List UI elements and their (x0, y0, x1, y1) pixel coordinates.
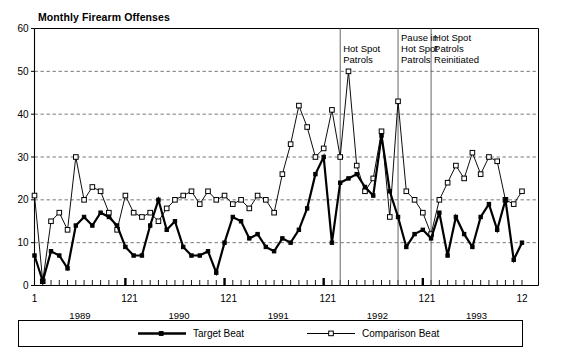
target-beat-point (82, 215, 85, 218)
annotation-label-line: Reinitiated (434, 54, 479, 65)
comparison-beat-point (487, 155, 492, 160)
target-beat-point (115, 224, 118, 227)
target-beat-point (91, 224, 94, 227)
annotation-label-line: Hot Spot (401, 43, 438, 54)
target-beat-point (148, 224, 151, 227)
comparison-beat-point (57, 210, 62, 215)
comparison-beat-point (32, 193, 37, 198)
x-axis-tick-label-year-boundary: 121 (419, 293, 436, 304)
comparison-beat-point (421, 210, 426, 215)
target-beat-point (173, 220, 176, 223)
year-label: 1992 (367, 310, 388, 321)
target-beat-point (471, 245, 474, 248)
comparison-beat-point (264, 198, 269, 203)
target-beat-point (380, 134, 383, 137)
comparison-beat-point (354, 163, 359, 168)
target-beat-point (446, 254, 449, 257)
comparison-beat-point (478, 172, 483, 177)
target-beat-point (239, 220, 242, 223)
target-beat-point (396, 215, 399, 218)
comparison-beat-point (297, 103, 302, 108)
comparison-beat-point (255, 193, 260, 198)
y-axis-tick-label: 20 (17, 194, 29, 205)
comparison-beat-point (181, 193, 186, 198)
legend-label-comparison-beat: Comparison Beat (362, 328, 439, 339)
target-beat-point (421, 228, 424, 231)
target-beat-point (33, 254, 36, 257)
target-beat-point (305, 207, 308, 210)
x-axis-tick-label-end: 12 (516, 293, 528, 304)
comparison-beat-point (107, 210, 112, 215)
target-beat-point (107, 215, 110, 218)
legend-box (19, 321, 523, 347)
target-beat-point (330, 241, 333, 244)
annotation-label-line: Patrols (401, 54, 431, 65)
target-beat-point (363, 185, 366, 188)
target-beat-point (66, 267, 69, 270)
comparison-beat-point (222, 193, 227, 198)
comparison-beat-point (189, 189, 194, 194)
comparison-beat-point (470, 150, 475, 155)
series-target-beat (33, 134, 524, 283)
comparison-beat-point (173, 198, 178, 203)
comparison-beat-point (272, 210, 277, 215)
y-axis-tick-label: 10 (17, 237, 29, 248)
x-axis-tick-label-start: 1 (32, 293, 38, 304)
y-axis-tick-label: 60 (17, 23, 29, 34)
target-beat-point (355, 172, 358, 175)
annotation-label-line: Hot Spot (343, 43, 380, 54)
year-labels-group: 19891990199119921993 (69, 310, 487, 321)
target-beat-point (198, 254, 201, 257)
target-beat-point (99, 211, 102, 214)
comparison-beat-point (280, 172, 285, 177)
year-label: 1991 (268, 310, 289, 321)
comparison-beat-point (330, 108, 335, 113)
y-axis-tick-label: 30 (17, 152, 29, 163)
target-beat-point (413, 232, 416, 235)
comparison-beat-point (338, 155, 343, 160)
y-axis-tick-labels-group: 0102030405060 (17, 23, 29, 291)
annotation-label-line: Pause in (401, 32, 438, 43)
comparison-beat-point (511, 202, 516, 207)
comparison-beat-point (82, 198, 87, 203)
target-beat-point (504, 198, 507, 201)
target-beat-point (132, 254, 135, 257)
target-beat-point (322, 155, 325, 158)
x-axis-ticks-group (35, 278, 522, 286)
target-beat-point (289, 241, 292, 244)
target-beat-point (438, 211, 441, 214)
target-beat-point (512, 258, 515, 261)
comparison-beat-point (520, 189, 525, 194)
comparison-beat-point (231, 202, 236, 207)
target-beat-point (74, 224, 77, 227)
target-beat-point (223, 241, 226, 244)
year-label: 1990 (169, 310, 190, 321)
target-beat-point (297, 228, 300, 231)
y-axis-tick-label: 50 (17, 66, 29, 77)
comparison-beat-point (74, 155, 79, 160)
comparison-beat-point (164, 206, 169, 211)
target-beat-point (124, 245, 127, 248)
comparison-beat-point (495, 159, 500, 164)
comparison-beat-point (148, 210, 153, 215)
target-beat-point (256, 232, 259, 235)
comparison-beat-point (412, 198, 417, 203)
target-beat-point (49, 250, 52, 253)
target-beat-point (231, 215, 234, 218)
target-beat-point (41, 280, 44, 283)
target-beat-point (215, 271, 218, 274)
target-beat-point (479, 215, 482, 218)
comparison-beat-point (346, 69, 351, 74)
year-label: 1993 (466, 310, 487, 321)
comparison-beat-point (404, 189, 409, 194)
target-beat-point (372, 194, 375, 197)
x-axis-tick-label-year-boundary: 121 (220, 293, 237, 304)
target-beat-point (281, 237, 284, 240)
target-beat-point (157, 198, 160, 201)
legend-sample-marker-target-beat (159, 332, 163, 336)
comparison-beat-point (140, 215, 145, 220)
comparison-beat-point (197, 202, 202, 207)
target-beat-point (264, 245, 267, 248)
comparison-beat-point (321, 146, 326, 151)
comparison-beat-point (305, 125, 310, 130)
